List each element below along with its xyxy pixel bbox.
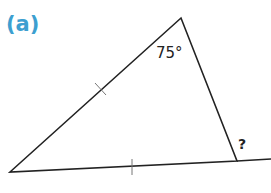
diagram-canvas: (a) 75° ? [0, 0, 271, 193]
extended-base-line [237, 159, 271, 161]
triangle-diagram [0, 0, 271, 193]
part-label: (a) [6, 12, 39, 36]
unknown-angle-label: ? [238, 136, 246, 152]
triangle [10, 18, 237, 172]
angle-label: 75° [156, 44, 183, 62]
